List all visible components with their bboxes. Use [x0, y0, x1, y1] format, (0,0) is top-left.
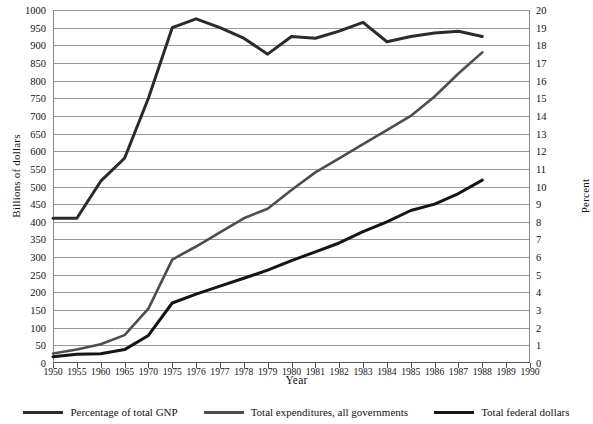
- x-axis-tick-mark: [268, 363, 269, 368]
- legend-label: Total federal dollars: [481, 406, 569, 418]
- y-axis-right-tick-label: 5: [536, 269, 541, 280]
- x-axis-tick-mark: [220, 363, 221, 368]
- x-axis-tick-mark: [53, 363, 54, 368]
- y-axis-left-tick-label: 700: [30, 110, 46, 121]
- y-axis-left-tick-label: 650: [30, 128, 46, 139]
- y-axis-right-tick-label: 9: [536, 199, 541, 210]
- x-axis-tick-mark: [411, 363, 412, 368]
- series-line: [53, 180, 482, 357]
- y-axis-left-tick-label: 850: [30, 57, 46, 68]
- y-axis-left-tick-label: 350: [30, 234, 46, 245]
- x-axis-tick-mark: [292, 363, 293, 368]
- y-axis-left-tick-label: 900: [30, 40, 46, 51]
- legend-swatch: [23, 411, 63, 414]
- plot-area: [53, 10, 530, 363]
- y-axis-right-tick-label: 2: [536, 322, 541, 333]
- x-axis-tick-mark: [339, 363, 340, 368]
- x-axis-tick-mark: [458, 363, 459, 368]
- y-axis-right-tick-label: 1: [536, 340, 541, 351]
- y-axis-left-ticks: 0501001502002503003504004505005506006507…: [0, 0, 48, 363]
- y-axis-left-tick-label: 800: [30, 75, 46, 86]
- y-axis-right-title: Percent: [579, 136, 591, 256]
- y-axis-left-tick-label: 600: [30, 146, 46, 157]
- legend-item[interactable]: Total federal dollars: [434, 406, 569, 418]
- y-axis-left-tick-label: 450: [30, 199, 46, 210]
- y-axis-left-tick-label: 150: [30, 305, 46, 316]
- y-axis-right-tick-label: 17: [536, 57, 547, 68]
- x-axis-tick-mark: [125, 363, 126, 368]
- x-axis-tick-mark: [530, 363, 531, 368]
- y-axis-right-tick-label: 16: [536, 75, 547, 86]
- series-line: [53, 19, 482, 218]
- y-axis-right-tick-label: 6: [536, 252, 541, 263]
- y-axis-left-tick-label: 400: [30, 216, 46, 227]
- series-line: [53, 52, 482, 353]
- y-axis-right-tick-label: 19: [536, 22, 547, 33]
- y-axis-left-tick-label: 550: [30, 163, 46, 174]
- y-axis-right-tick-label: 3: [536, 305, 541, 316]
- x-axis-tick-mark: [315, 363, 316, 368]
- y-axis-left-tick-label: 100: [30, 322, 46, 333]
- x-axis-ticks: 1950195519601965197019751976197719781979…: [53, 366, 530, 382]
- legend-item[interactable]: Percentage of total GNP: [23, 406, 177, 418]
- x-axis-tick-mark: [148, 363, 149, 368]
- x-axis-tick-mark: [435, 363, 436, 368]
- chart-container: Billions of dollars Percent Year 0501001…: [0, 0, 593, 424]
- x-axis-tick-mark: [506, 363, 507, 368]
- legend-swatch: [204, 411, 244, 414]
- x-axis-tick-mark: [101, 363, 102, 368]
- x-axis-tick-mark: [77, 363, 78, 368]
- y-axis-left-tick-label: 50: [36, 340, 47, 351]
- legend-swatch: [434, 411, 474, 414]
- x-axis-tick-mark: [244, 363, 245, 368]
- y-axis-left-tick-label: 750: [30, 93, 46, 104]
- legend-label: Percentage of total GNP: [70, 406, 177, 418]
- x-axis-tick-mark: [172, 363, 173, 368]
- y-axis-right-tick-label: 20: [536, 5, 547, 16]
- y-axis-right-tick-label: 13: [536, 128, 547, 139]
- y-axis-right-tick-label: 4: [536, 287, 541, 298]
- y-axis-right-tick-label: 14: [536, 110, 547, 121]
- x-axis-tick-mark: [363, 363, 364, 368]
- y-axis-left-tick-label: 200: [30, 287, 46, 298]
- y-axis-right-tick-label: 10: [536, 181, 547, 192]
- y-axis-left-tick-label: 950: [30, 22, 46, 33]
- y-axis-left-tick-label: 1000: [25, 5, 46, 16]
- y-axis-right-tick-label: 7: [536, 234, 541, 245]
- y-axis-left-tick-label: 500: [30, 181, 46, 192]
- y-axis-left-tick-label: 300: [30, 252, 46, 263]
- y-axis-right-tick-label: 11: [536, 163, 546, 174]
- y-axis-right-tick-label: 18: [536, 40, 547, 51]
- legend-item[interactable]: Total expenditures, all governments: [204, 406, 408, 418]
- y-axis-right-tick-label: 8: [536, 216, 541, 227]
- y-axis-right-ticks: 01234567891011121314151617181920: [534, 0, 564, 363]
- series-lines: [53, 10, 530, 363]
- y-axis-right-tick-label: 15: [536, 93, 547, 104]
- x-axis-tick-mark: [482, 363, 483, 368]
- y-axis-left-tick-label: 250: [30, 269, 46, 280]
- chart-legend: Percentage of total GNPTotal expenditure…: [0, 402, 593, 422]
- x-axis-tick-mark: [387, 363, 388, 368]
- y-axis-right-tick-label: 12: [536, 146, 547, 157]
- legend-label: Total expenditures, all governments: [251, 406, 408, 418]
- x-axis-tick-mark: [196, 363, 197, 368]
